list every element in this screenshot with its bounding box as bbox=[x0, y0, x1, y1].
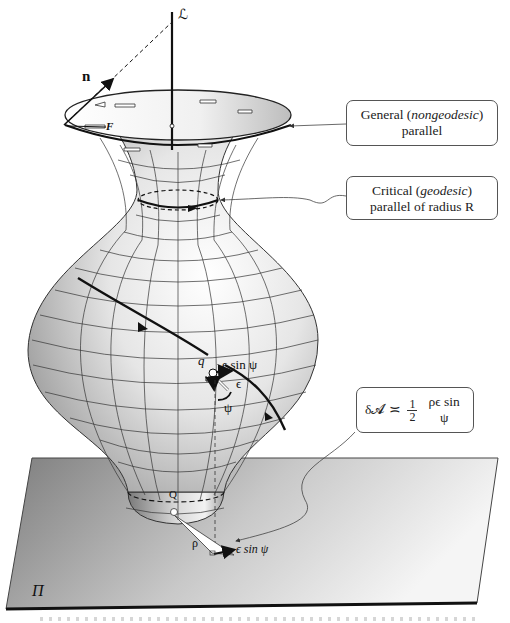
diagram-stage: ℒ n F q ϵ sin ψ ϵ ψ Q ρ ϵ sin ψ Π Genera… bbox=[0, 0, 510, 623]
fraction-numerator: 1 bbox=[407, 398, 417, 411]
formula-lhs: δ𝓐 bbox=[365, 402, 385, 418]
clipped-caption bbox=[0, 614, 510, 623]
projected-component-label: ϵ sin ψ bbox=[236, 542, 268, 557]
vase-diagram bbox=[0, 0, 510, 623]
callout-text: parallel of radius R bbox=[355, 199, 489, 215]
projected-point-label: Q bbox=[169, 488, 177, 500]
callout-general-parallel: General (nongeodesic) parallel bbox=[346, 100, 498, 146]
component-label: ϵ sin ψ bbox=[222, 357, 257, 373]
fraction-denominator: 2 bbox=[409, 411, 415, 423]
radius-label: ρ bbox=[192, 536, 198, 551]
callout-text: Critical ( bbox=[372, 183, 420, 198]
angle-label: ψ bbox=[224, 400, 232, 416]
callout-area-formula: δ𝓐 ≍ 1 2 ρϵ sin ψ bbox=[356, 387, 474, 433]
callout-italic-text: geodesic bbox=[420, 183, 467, 198]
plane-pi bbox=[6, 458, 498, 609]
formula-relation: ≍ bbox=[389, 402, 401, 418]
callout-text: ) bbox=[468, 183, 473, 198]
axis-label: ℒ bbox=[178, 6, 188, 23]
force-label: F bbox=[106, 120, 113, 132]
callout-text: General ( bbox=[361, 107, 412, 122]
surface-point-label: q bbox=[198, 353, 205, 369]
callout-italic-text: nongeodesic bbox=[411, 107, 478, 122]
formula-fraction: 1 2 bbox=[407, 398, 417, 423]
callout-critical-parallel: Critical (geodesic) parallel of radius R bbox=[346, 176, 498, 220]
displacement-label: ϵ bbox=[236, 376, 241, 392]
normal-label: n bbox=[82, 68, 90, 85]
vase-body bbox=[28, 90, 318, 520]
callout-text: parallel bbox=[355, 123, 489, 139]
callout-text: ) bbox=[479, 107, 484, 122]
formula-rhs: ρϵ sin ψ bbox=[423, 394, 465, 426]
plane-label: Π bbox=[32, 582, 44, 600]
